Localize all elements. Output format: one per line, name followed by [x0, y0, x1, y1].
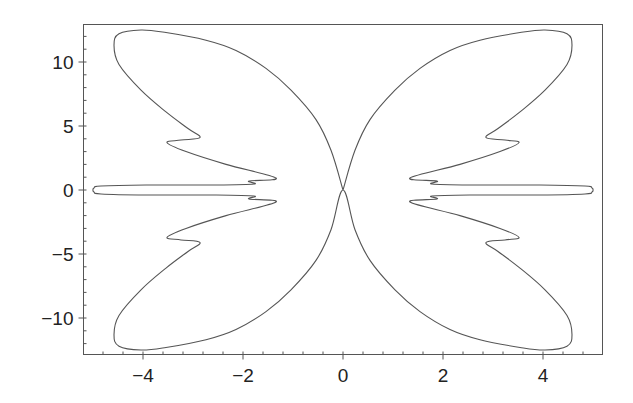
y-tick-label: −5	[52, 244, 74, 265]
x-tick-label: −2	[232, 365, 254, 386]
y-tick-label: −10	[41, 308, 73, 329]
x-tick-label: 4	[538, 365, 549, 386]
polar-curve	[93, 30, 593, 350]
y-tick-label: 10	[52, 52, 73, 73]
x-tick-label: 0	[338, 365, 349, 386]
x-tick-label: 2	[438, 365, 449, 386]
y-axis-tick-labels: 1050−5−10	[41, 52, 73, 329]
x-tick-label: −4	[132, 365, 154, 386]
y-axis-ticks	[79, 36, 87, 343]
y-tick-label: 0	[63, 180, 74, 201]
x-axis-ticks	[103, 352, 583, 360]
y-tick-label: 5	[63, 116, 74, 137]
chart-plot: −4−2024 1050−5−10	[0, 0, 633, 403]
x-axis-tick-labels: −4−2024	[132, 365, 549, 386]
